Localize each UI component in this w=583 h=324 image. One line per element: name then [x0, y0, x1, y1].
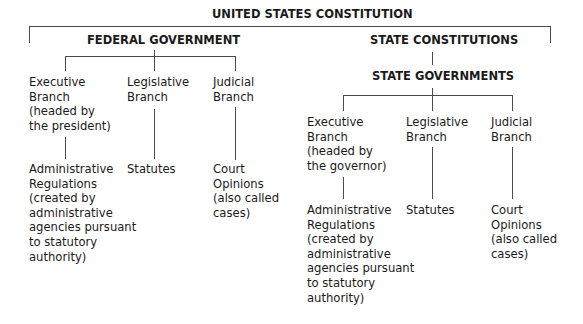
state-judicial-connector — [512, 95, 513, 111]
federal-court-opinions: Court Opinions (also called cases) — [213, 162, 279, 220]
state-jud-source-connector — [512, 147, 513, 199]
state-connector — [432, 88, 433, 111]
us-constitution-title: UNITED STATES CONSTITUTION — [212, 7, 413, 21]
state-administrative-regulations: Administrative Regulations (created by a… — [307, 203, 414, 305]
federal-exec-connector — [65, 56, 66, 71]
state-court-opinions: Court Opinions (also called cases) — [491, 203, 557, 261]
state-leg-source-connector — [432, 147, 433, 199]
federal-government-title: FEDERAL GOVERNMENT — [87, 33, 240, 47]
root-bracket-right — [550, 26, 551, 43]
federal-administrative-regulations: Administrative Regulations (created by a… — [29, 162, 136, 264]
federal-executive-branch: Executive Branch (headed by the presiden… — [29, 75, 111, 133]
state-governments-title: STATE GOVERNMENTS — [372, 69, 514, 83]
federal-statutes: Statutes — [127, 162, 176, 177]
state-executive-branch: Executive Branch (headed by the governor… — [307, 115, 386, 173]
federal-leg-source-connector — [154, 109, 155, 159]
state-statutes: Statutes — [406, 203, 455, 218]
state-constitutions-connector — [432, 52, 433, 65]
root-bracket-left — [29, 26, 30, 43]
state-judicial-branch: Judicial Branch — [491, 115, 532, 144]
federal-legislative-branch: Legislative Branch — [127, 75, 189, 104]
root-bracket-horizontal — [29, 26, 551, 27]
state-branch-bar — [343, 95, 513, 96]
state-legislative-branch: Legislative Branch — [406, 115, 468, 144]
state-exec-connector — [343, 95, 344, 111]
federal-branch-bar — [65, 56, 236, 57]
federal-connector — [154, 50, 155, 71]
state-constitutions-title: STATE CONSTITUTIONS — [370, 33, 518, 47]
federal-jud-source-connector — [235, 107, 236, 160]
federal-exec-source-connector — [65, 137, 66, 159]
federal-judicial-connector — [235, 56, 236, 71]
federal-judicial-branch: Judicial Branch — [213, 75, 254, 104]
state-exec-source-connector — [343, 177, 344, 199]
